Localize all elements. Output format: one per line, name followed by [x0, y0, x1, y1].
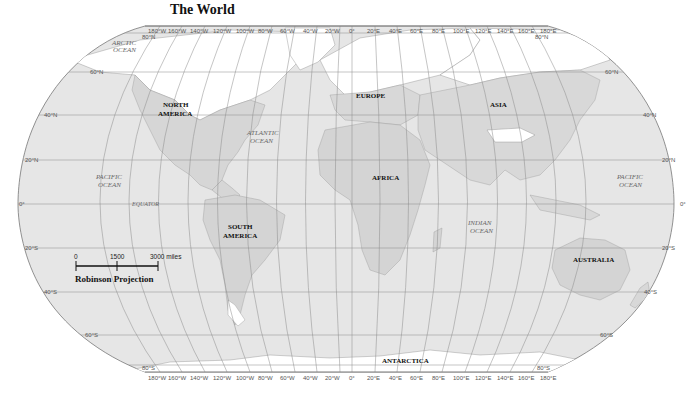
svg-text:40°S: 40°S	[644, 289, 657, 295]
svg-text:40°W: 40°W	[303, 375, 318, 381]
label-pacific-east-1: PACIFIC	[616, 173, 643, 181]
svg-text:40°N: 40°N	[643, 112, 656, 118]
svg-text:100°E: 100°E	[453, 28, 469, 34]
label-asia: ASIA	[490, 101, 507, 109]
svg-text:80°W: 80°W	[258, 28, 273, 34]
svg-text:160°W: 160°W	[168, 28, 186, 34]
label-indian-2: OCEAN	[470, 227, 493, 235]
svg-text:40°W: 40°W	[303, 28, 318, 34]
label-arctic-2: OCEAN	[113, 46, 136, 54]
longitude-labels-bottom: 180°W 160°W 140°W 120°W 100°W 80°W 60°W …	[148, 375, 556, 381]
label-pacific-west-1: PACIFIC	[95, 173, 122, 181]
svg-text:60°E: 60°E	[410, 375, 423, 381]
svg-text:80°W: 80°W	[258, 375, 273, 381]
svg-text:0°: 0°	[349, 375, 355, 381]
svg-text:20°W: 20°W	[325, 375, 340, 381]
label-australia: AUSTRALIA	[573, 256, 614, 264]
svg-text:80°E: 80°E	[432, 28, 445, 34]
svg-text:120°E: 120°E	[475, 28, 491, 34]
scale-tick-0: 0	[74, 253, 78, 260]
svg-text:60°N: 60°N	[90, 69, 103, 75]
svg-text:0°: 0°	[19, 201, 25, 207]
svg-text:140°W: 140°W	[190, 28, 208, 34]
label-atlantic-1: ATLANTIC	[246, 129, 279, 137]
label-indian-1: INDIAN	[467, 219, 492, 227]
svg-text:20°N: 20°N	[662, 157, 675, 163]
svg-text:40°E: 40°E	[389, 28, 402, 34]
svg-text:40°S: 40°S	[44, 289, 57, 295]
projection-label: Robinson Projection	[75, 274, 154, 284]
svg-text:120°W: 120°W	[213, 375, 231, 381]
svg-text:140°W: 140°W	[190, 375, 208, 381]
svg-text:60°E: 60°E	[410, 28, 423, 34]
label-south-america-2: AMERICA	[223, 232, 257, 240]
svg-text:60°W: 60°W	[280, 375, 295, 381]
svg-text:20°E: 20°E	[367, 28, 380, 34]
svg-text:160°W: 160°W	[168, 375, 186, 381]
svg-text:60°S: 60°S	[600, 332, 613, 338]
svg-text:120°E: 120°E	[475, 375, 491, 381]
svg-text:20°W: 20°W	[325, 28, 340, 34]
svg-text:20°S: 20°S	[662, 245, 675, 251]
label-europe: EUROPE	[356, 92, 386, 100]
svg-text:180°W: 180°W	[148, 375, 166, 381]
label-south-america-1: SOUTH	[228, 223, 253, 231]
svg-text:20°S: 20°S	[25, 245, 38, 251]
svg-text:20°N: 20°N	[25, 157, 38, 163]
svg-text:20°E: 20°E	[367, 375, 380, 381]
svg-text:120°W: 120°W	[213, 28, 231, 34]
svg-text:80°S: 80°S	[142, 365, 155, 371]
label-antarctica: ANTARCTICA	[382, 357, 429, 365]
svg-text:100°W: 100°W	[236, 28, 254, 34]
svg-text:60°S: 60°S	[85, 332, 98, 338]
label-north-america-1: NORTH	[163, 101, 189, 109]
svg-text:0°: 0°	[349, 28, 355, 34]
svg-text:180°E: 180°E	[540, 375, 556, 381]
svg-text:160°E: 160°E	[518, 28, 534, 34]
world-map: 180°W 160°W 140°W 120°W 100°W 80°W 60°W …	[0, 0, 693, 397]
svg-text:80°E: 80°E	[432, 375, 445, 381]
label-atlantic-2: OCEAN	[250, 137, 273, 145]
svg-text:60°W: 60°W	[280, 28, 295, 34]
svg-text:160°E: 160°E	[518, 375, 534, 381]
label-pacific-west-2: OCEAN	[98, 181, 121, 189]
svg-text:60°N: 60°N	[605, 69, 618, 75]
scale-tick-3000: 3000 miles	[150, 253, 182, 260]
scale-tick-1500: 1500	[110, 253, 125, 260]
svg-text:80°N: 80°N	[142, 34, 155, 40]
label-africa: AFRICA	[372, 174, 399, 182]
svg-text:100°E: 100°E	[453, 375, 469, 381]
svg-text:80°N: 80°N	[535, 34, 548, 40]
label-equator: EQUATOR	[131, 201, 159, 207]
svg-text:140°E: 140°E	[497, 375, 513, 381]
label-pacific-east-2: OCEAN	[619, 181, 642, 189]
svg-text:140°E: 140°E	[497, 28, 513, 34]
label-north-america-2: AMERICA	[158, 110, 192, 118]
svg-text:0°: 0°	[680, 201, 686, 207]
svg-text:40°N: 40°N	[44, 112, 57, 118]
svg-text:80°S: 80°S	[537, 365, 550, 371]
svg-text:40°E: 40°E	[389, 375, 402, 381]
svg-text:100°W: 100°W	[236, 375, 254, 381]
